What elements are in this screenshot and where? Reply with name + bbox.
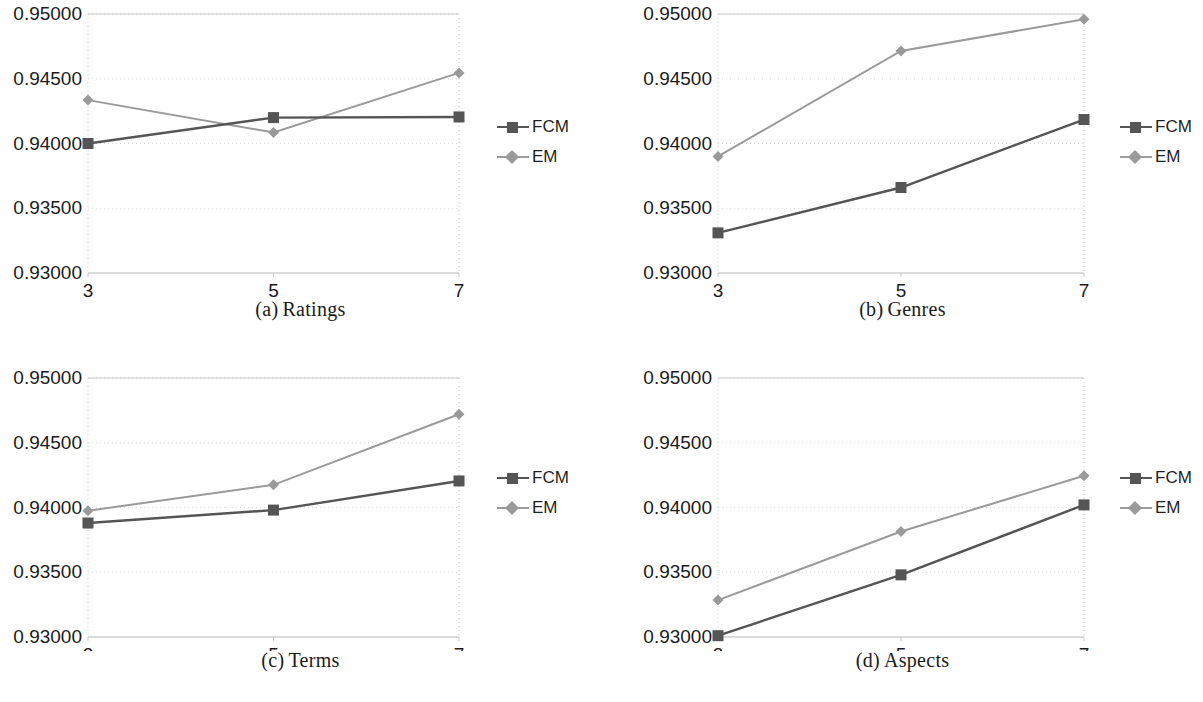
data-point-em: [1079, 14, 1090, 25]
y-tick-label: 0.95000: [643, 3, 712, 24]
legend-square-marker-icon: [497, 119, 529, 135]
data-point-fcm: [713, 227, 724, 238]
data-point-fcm: [268, 112, 279, 123]
legend-square-marker-icon: [497, 470, 529, 486]
line-chart-b: 0.930000.935000.940000.945000.95000357: [602, 0, 1203, 300]
data-point-em: [896, 526, 907, 537]
plot-area-c: 0.930000.935000.940000.945000.95000357 F…: [0, 351, 601, 651]
data-point-em: [713, 595, 724, 606]
legend-square-marker-icon: [1120, 470, 1152, 486]
data-point-fcm: [454, 111, 465, 122]
x-tick-label: 3: [713, 280, 724, 300]
legend-label: EM: [532, 498, 558, 518]
legend-diamond-marker-icon: [497, 500, 529, 516]
legend-item-fcm: FCM: [1120, 112, 1192, 142]
data-point-em: [268, 479, 279, 490]
y-tick-label: 0.94000: [13, 497, 82, 518]
legend-c: FCMEM: [497, 463, 569, 523]
caption-d-index: (d): [856, 649, 880, 671]
series-line-em: [718, 19, 1084, 156]
y-tick-label: 0.95000: [13, 367, 82, 388]
x-tick-label: 7: [454, 280, 465, 300]
data-point-em: [713, 151, 724, 162]
data-point-em: [1079, 470, 1090, 481]
data-point-fcm: [896, 182, 907, 193]
legend-label: FCM: [1155, 117, 1192, 137]
caption-c-text: Terms: [288, 649, 339, 671]
caption-d: (d)Aspects: [602, 649, 1203, 672]
y-tick-label: 0.94500: [643, 432, 712, 453]
data-point-em: [83, 95, 94, 106]
legend-a: FCMEM: [497, 112, 569, 172]
data-point-fcm: [83, 138, 94, 149]
legend-label: FCM: [532, 468, 569, 488]
legend-label: FCM: [532, 117, 569, 137]
x-tick-label: 7: [1079, 280, 1090, 300]
y-tick-label: 0.94000: [643, 133, 712, 154]
legend-diamond-marker-icon: [1120, 149, 1152, 165]
y-tick-label: 0.94500: [643, 68, 712, 89]
y-tick-label: 0.93500: [13, 561, 82, 582]
y-tick-label: 0.93000: [643, 626, 712, 647]
y-tick-label: 0.93500: [643, 197, 712, 218]
data-point-fcm: [83, 518, 94, 529]
caption-c: (c)Terms: [0, 649, 601, 672]
legend-item-fcm: FCM: [1120, 463, 1192, 493]
caption-b-text: Genres: [887, 298, 945, 320]
y-tick-label: 0.94500: [13, 68, 82, 89]
legend-diamond-marker-icon: [497, 149, 529, 165]
y-tick-label: 0.93000: [643, 262, 712, 283]
plot-area-b: 0.930000.935000.940000.945000.95000357 F…: [602, 0, 1203, 300]
data-point-em: [454, 409, 465, 420]
data-point-fcm: [268, 505, 279, 516]
data-point-fcm: [896, 569, 907, 580]
legend-item-fcm: FCM: [497, 463, 569, 493]
legend-item-em: EM: [1120, 142, 1192, 172]
series-line-fcm: [718, 120, 1084, 233]
legend-item-em: EM: [497, 493, 569, 523]
legend-item-em: EM: [497, 142, 569, 172]
data-point-em: [268, 127, 279, 138]
legend-d: FCMEM: [1120, 463, 1192, 523]
plot-area-a: 0.930000.935000.940000.945000.95000357 F…: [0, 0, 601, 300]
caption-b-index: (b): [859, 298, 883, 320]
data-point-fcm: [454, 475, 465, 486]
plot-area-d: 0.930000.935000.940000.945000.95000357 F…: [602, 351, 1203, 651]
series-line-em: [88, 73, 459, 133]
data-point-fcm: [1079, 114, 1090, 125]
subfigure-c-terms: 0.930000.935000.940000.945000.95000357 F…: [0, 351, 601, 702]
legend-diamond-marker-icon: [1120, 500, 1152, 516]
caption-a-index: (a): [255, 298, 278, 320]
legend-label: EM: [532, 147, 558, 167]
y-tick-label: 0.93000: [13, 626, 82, 647]
x-tick-label: 3: [83, 280, 94, 300]
legend-item-fcm: FCM: [497, 112, 569, 142]
caption-a: (a)Ratings: [0, 298, 601, 321]
legend-square-marker-icon: [1120, 119, 1152, 135]
legend-label: EM: [1155, 147, 1181, 167]
x-tick-label: 5: [268, 280, 279, 300]
y-tick-label: 0.93000: [13, 262, 82, 283]
legend-item-em: EM: [1120, 493, 1192, 523]
y-tick-label: 0.94000: [643, 497, 712, 518]
caption-a-text: Ratings: [282, 298, 345, 320]
line-chart-d: 0.930000.935000.940000.945000.95000357: [602, 351, 1203, 651]
series-line-em: [88, 414, 459, 510]
series-line-em: [718, 476, 1084, 600]
caption-b: (b)Genres: [602, 298, 1203, 321]
subfigure-b-genres: 0.930000.935000.940000.945000.95000357 F…: [602, 0, 1203, 351]
data-point-em: [454, 67, 465, 78]
y-tick-label: 0.93500: [643, 561, 712, 582]
legend-label: EM: [1155, 498, 1181, 518]
y-tick-label: 0.94000: [13, 133, 82, 154]
subfigure-a-ratings: 0.930000.935000.940000.945000.95000357 F…: [0, 0, 601, 351]
data-point-fcm: [713, 630, 724, 641]
caption-d-text: Aspects: [884, 649, 949, 671]
x-tick-label: 5: [896, 280, 907, 300]
y-tick-label: 0.93500: [13, 197, 82, 218]
data-point-fcm: [1079, 499, 1090, 510]
y-tick-label: 0.95000: [643, 367, 712, 388]
subfigure-d-aspects: 0.930000.935000.940000.945000.95000357 F…: [602, 351, 1203, 702]
data-point-em: [83, 505, 94, 516]
y-tick-label: 0.95000: [13, 3, 82, 24]
